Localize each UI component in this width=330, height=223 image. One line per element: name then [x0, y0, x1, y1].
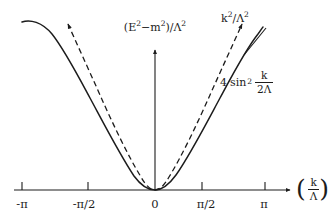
x-label-open-paren: ( [296, 179, 306, 199]
dispersion-figure: (E2−m2)/Λ2 k2/Λ2 4sin2 k 2Λ -π -π/2 0 π/… [0, 0, 330, 223]
x-label-close-paren: ) [319, 179, 329, 199]
x-tick-label-minus-pi: -π [16, 199, 27, 211]
sin-sup: 2 [247, 78, 252, 86]
y-label-open: (E [124, 21, 136, 34]
x-label-fraction: k Λ [308, 177, 320, 201]
y-label-minus: −m [141, 21, 161, 34]
y-label-close: )/Λ [165, 21, 181, 34]
x-label-denominator: Λ [308, 189, 320, 202]
x-axis-label: ( k Λ ) [296, 177, 329, 201]
k2-mid: /Λ [232, 12, 244, 25]
y-label-sup3: 2 [181, 19, 186, 28]
sin-denominator: 2Λ [255, 82, 273, 95]
k2-sup2: 2 [244, 10, 249, 19]
leader-k-squared [244, 28, 266, 55]
x-tick-label-minus-pi-half: -π/2 [73, 199, 96, 211]
curve-four-sin-squared [22, 21, 263, 190]
x-tick-label-pi-half: π/2 [197, 199, 216, 211]
sin-argument-fraction: k 2Λ [255, 70, 273, 94]
k2-base: k [221, 12, 228, 25]
y-axis-label: (E2−m2)/Λ2 [124, 20, 186, 33]
annotation-four-sin-squared: 4sin2 k 2Λ [220, 70, 273, 94]
sin-fn: sin [230, 77, 246, 88]
x-label-numerator: k [308, 177, 318, 188]
annotation-k-squared: k2/Λ2 [221, 11, 249, 24]
sin-numerator: k [259, 70, 269, 81]
x-tick-label-pi: π [260, 199, 268, 211]
sin-coef: 4 [220, 77, 227, 88]
x-tick-label-zero: 0 [151, 199, 158, 211]
